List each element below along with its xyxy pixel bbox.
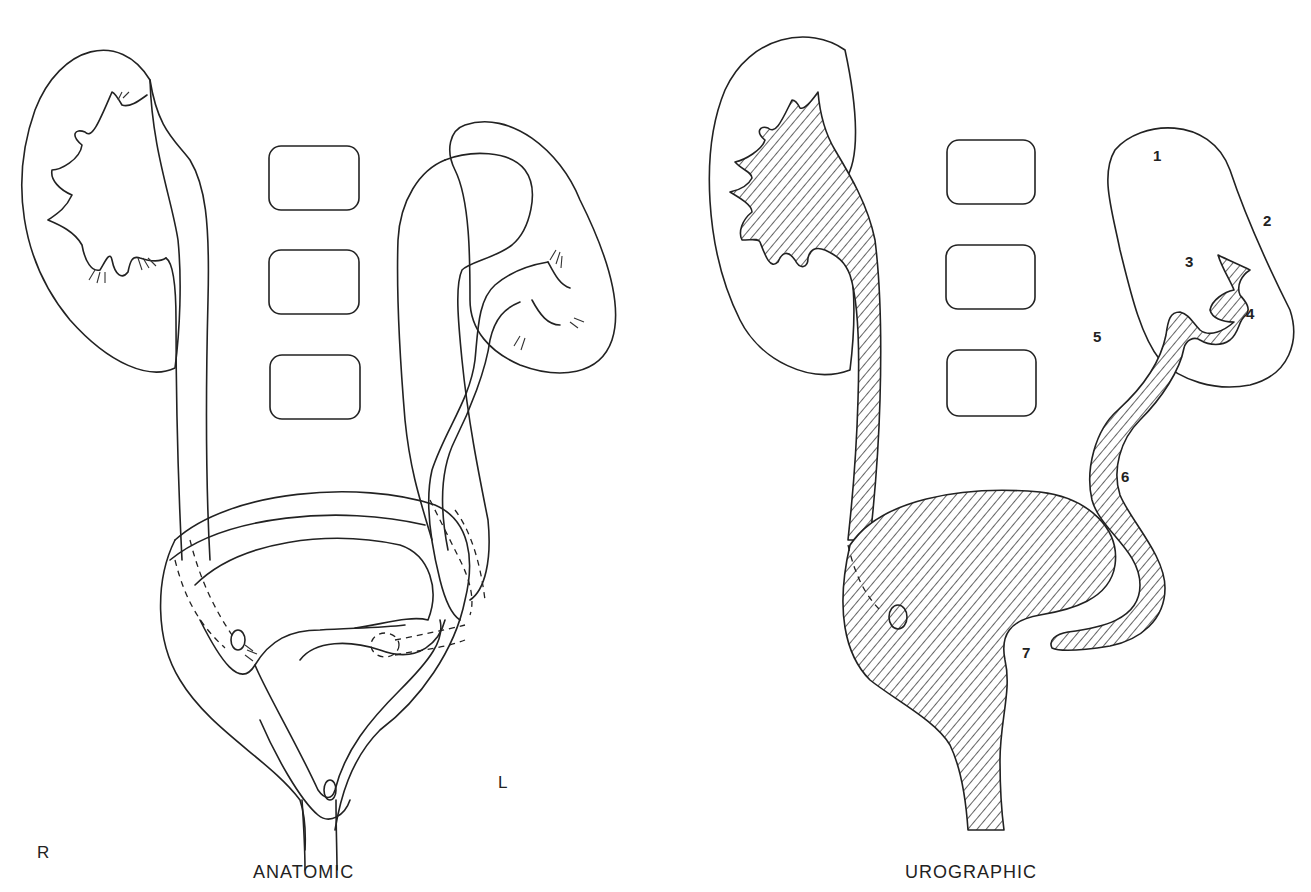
label-3: 3 [1185,253,1193,270]
label-2: 2 [1263,212,1271,229]
caption-urographic: UROGRAPHIC [905,862,1037,883]
right-kidney-anatomic [22,50,210,560]
right-collecting-system-urographic [730,92,881,540]
label-1: 1 [1153,147,1161,164]
orientation-left-label: L [498,773,508,793]
label-4: 4 [1246,305,1254,322]
caption-anatomic: ANATOMIC [253,862,354,883]
orientation-right-label: R [37,843,50,863]
left-kidney-anatomic [397,122,615,620]
anatomic-panel [22,50,616,870]
label-6: 6 [1121,468,1129,485]
urographic-panel [709,37,1293,830]
bladder-urographic [843,490,1116,830]
left-kidney-urographic [1108,128,1294,387]
figure-canvas [0,0,1311,892]
label-5: 5 [1093,328,1101,345]
vertebrae-anatomic [269,146,360,419]
label-7: 7 [1022,644,1030,661]
vertebrae-urographic [946,140,1036,416]
